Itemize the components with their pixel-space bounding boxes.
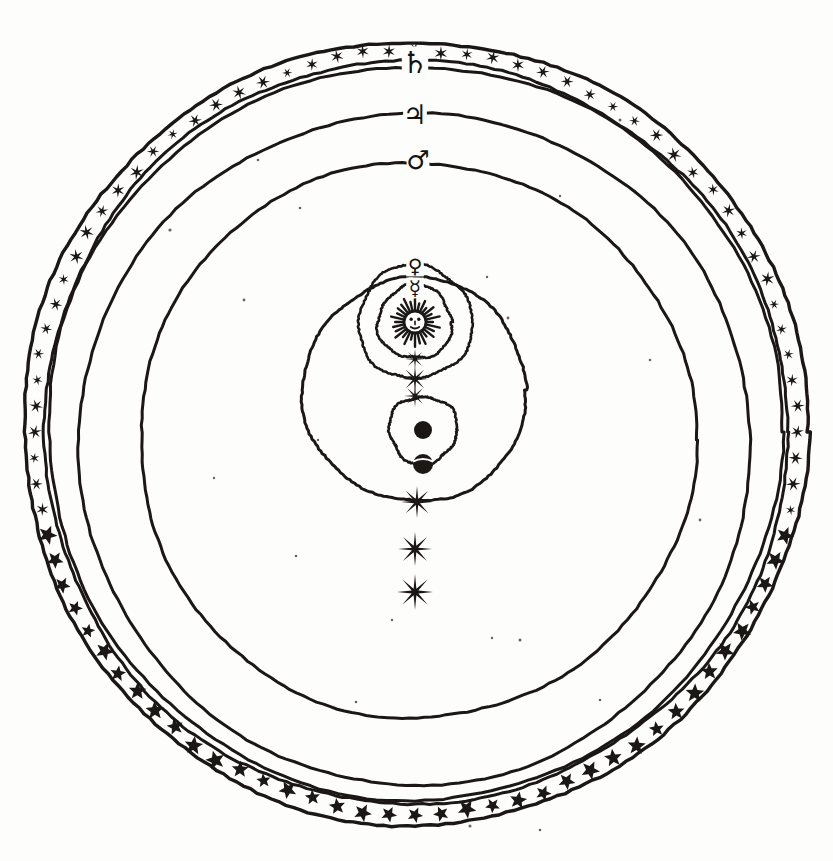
fixed-star — [512, 58, 524, 72]
paper-speck-6 — [507, 317, 510, 320]
paper-speck-12 — [213, 477, 215, 479]
sun-ray — [391, 317, 403, 320]
paper-speck-9 — [519, 639, 522, 642]
fixed-star — [28, 399, 44, 414]
fixed-star — [777, 526, 795, 545]
fixed-star — [33, 349, 45, 359]
fixed-star — [789, 424, 805, 439]
sun-face-eye-right — [417, 318, 420, 321]
fixed-star — [788, 451, 803, 464]
fixed-star — [790, 399, 805, 412]
sun-ray — [418, 303, 420, 310]
orbit-circle-mars — [141, 163, 697, 719]
fixed-star — [715, 640, 737, 663]
paper-speck-17 — [599, 699, 602, 702]
orbit-node-stars — [397, 349, 433, 610]
paper-speck-5 — [649, 359, 652, 362]
node-jupiter-marker — [398, 532, 432, 566]
paper-speck-14 — [469, 825, 472, 828]
paper-speck-4 — [243, 299, 246, 302]
fixed-star — [93, 203, 110, 220]
paper-speck-7 — [486, 276, 488, 278]
paper-speck-1 — [299, 207, 302, 210]
fixed-star — [31, 374, 44, 386]
fixed-star — [627, 114, 641, 129]
marker-saturn: ♄ — [402, 45, 429, 80]
sun-ray — [410, 302, 412, 310]
fixed-star — [583, 87, 597, 102]
paper-speck-0 — [168, 228, 171, 231]
fixed-star — [30, 478, 43, 490]
paper-speck-2 — [619, 119, 622, 122]
fixed-star — [380, 806, 398, 823]
fixed-star — [485, 799, 500, 814]
fixed-star — [782, 348, 795, 360]
fixed-star — [383, 44, 395, 58]
node-mercury-marker — [405, 349, 425, 369]
paper-speck-18 — [391, 619, 393, 621]
fixed-star — [559, 73, 575, 90]
node-saturn-marker — [397, 574, 433, 610]
paper-speck-3 — [559, 195, 561, 197]
fixed-star — [734, 226, 750, 241]
fixed-star — [784, 504, 797, 516]
fixed-star — [306, 58, 318, 71]
fixed-star — [48, 297, 63, 311]
node-mars-marker — [401, 486, 433, 518]
sun-ray — [411, 334, 412, 340]
paper-speck-16 — [317, 439, 319, 441]
body-sun — [391, 297, 440, 347]
sun-ray — [393, 325, 403, 327]
body-moon-body — [413, 454, 433, 474]
paper-speck-8 — [295, 555, 298, 558]
fixed-star — [435, 46, 447, 60]
fixed-star — [281, 66, 294, 80]
fixed-star — [166, 127, 180, 141]
marker-mars: ♂ — [406, 145, 429, 175]
paper-speck-19 — [257, 159, 260, 162]
sun-ray — [427, 325, 440, 328]
fixed-star — [432, 806, 450, 824]
paper-foxing-specks — [168, 119, 701, 832]
fixed-star — [57, 273, 71, 286]
fixed-star — [606, 100, 620, 114]
fixed-star — [775, 323, 789, 336]
marker-jupiter: ♃ — [403, 99, 427, 130]
fixed-star — [67, 248, 86, 266]
orbit-circle-jupiter — [78, 113, 751, 786]
earth-disc — [414, 421, 432, 439]
fixed-star — [353, 804, 373, 823]
fixed-star — [602, 747, 626, 771]
fixed-star — [461, 48, 473, 61]
paper-speck-10 — [355, 701, 358, 704]
node-sun-marker — [404, 385, 426, 407]
paper-speck-11 — [491, 637, 493, 639]
sun-ray — [427, 316, 440, 319]
celestial-sphere-drawing: ♄♃♂♀☿ — [0, 0, 833, 861]
fixed-star — [78, 622, 97, 641]
fixed-star — [647, 719, 668, 740]
fixed-star — [326, 796, 348, 817]
fixed-star — [698, 661, 721, 684]
sun-ray — [422, 308, 426, 313]
fixed-star — [648, 126, 665, 144]
paper-speck-15 — [539, 829, 542, 832]
sun-ray — [426, 314, 432, 317]
sun-face-eye-left — [410, 318, 413, 321]
body-earth — [414, 421, 432, 439]
fixed-star — [39, 322, 53, 335]
sun-ray — [418, 334, 420, 344]
marker-mercury: ☿ — [409, 276, 421, 300]
marker-venus: ♀ — [408, 254, 423, 278]
fixed-star — [26, 424, 43, 440]
fixed-star — [28, 452, 42, 465]
fixed-star — [406, 807, 424, 825]
tychonic-system-figure: ♄♃♂♀☿ — [0, 0, 833, 861]
fixed-star — [769, 299, 780, 309]
fixed-star — [785, 477, 801, 491]
paper-speck-13 — [699, 519, 702, 522]
planet-symbol-markers: ♄♃♂♀☿ — [402, 45, 430, 301]
fixed-star — [142, 699, 167, 724]
moon-disc — [413, 454, 433, 474]
